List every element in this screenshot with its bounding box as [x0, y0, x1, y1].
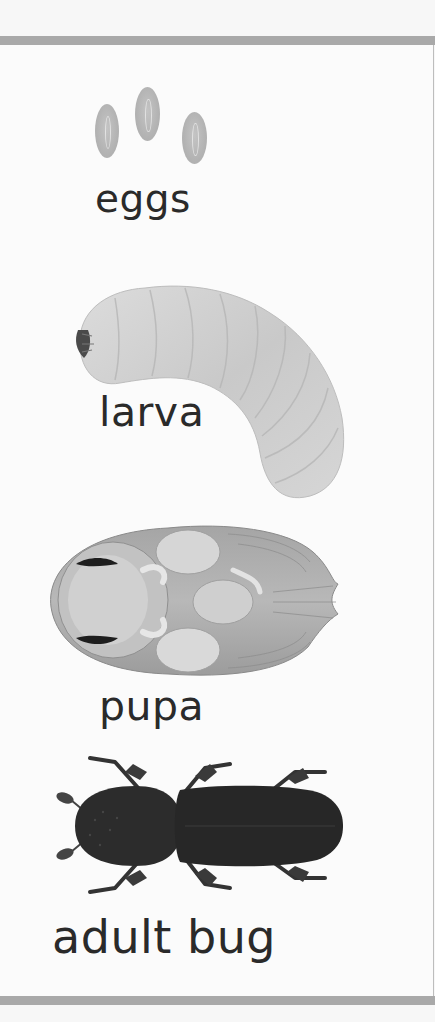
- stage-label-eggs: eggs: [95, 176, 191, 221]
- egg-icon: [182, 112, 207, 164]
- pupa-icon: [48, 522, 348, 682]
- top-divider-band: [0, 36, 435, 45]
- bottom-divider-band: [0, 996, 435, 1005]
- stage-label-pupa: pupa: [99, 682, 204, 730]
- stage-label-adult: adult bug: [52, 910, 276, 964]
- egg-icon: [95, 104, 119, 158]
- stage-label-larva: larva: [99, 388, 204, 436]
- egg-icon: [135, 87, 160, 141]
- beetle-icon: [55, 750, 355, 900]
